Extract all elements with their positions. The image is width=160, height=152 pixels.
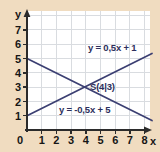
x-tick-label-1: 1 bbox=[35, 135, 49, 146]
y-tick-label-2: 2 bbox=[7, 97, 21, 108]
x-tick-label-3: 3 bbox=[64, 135, 78, 146]
equation-label-falling: y = -0,5x + 5 bbox=[59, 104, 110, 115]
y-tick-label-5: 5 bbox=[7, 54, 21, 65]
x-tick-label-8: 8 bbox=[138, 135, 152, 146]
y-tick-label-6: 6 bbox=[7, 39, 21, 50]
x-tick-label-5: 5 bbox=[94, 135, 108, 146]
x-tick-label-6: 6 bbox=[108, 135, 122, 146]
y-axis-arrow bbox=[24, 9, 31, 17]
equation-label-rising: y = 0,5x + 1 bbox=[88, 42, 136, 53]
origin-label: 0 bbox=[13, 135, 27, 146]
y-tick-label-4: 4 bbox=[7, 68, 21, 79]
y-tick-label-1: 1 bbox=[7, 111, 21, 122]
y-tick-label-3: 3 bbox=[7, 82, 21, 93]
x-tick-label-2: 2 bbox=[49, 135, 63, 146]
x-tick-label-7: 7 bbox=[123, 135, 137, 146]
x-tick-label-4: 4 bbox=[79, 135, 93, 146]
gridlines-horizontal bbox=[27, 16, 150, 116]
y-axis-name: y bbox=[15, 8, 21, 20]
plot-svg bbox=[0, 0, 160, 152]
intersection-point-label: S(4|3) bbox=[90, 81, 115, 92]
coordinate-plane-figure: y x 7 6 5 4 3 2 1 0 1 2 3 4 5 6 7 8 y = … bbox=[0, 0, 160, 152]
y-tick-label-7: 7 bbox=[7, 25, 21, 36]
